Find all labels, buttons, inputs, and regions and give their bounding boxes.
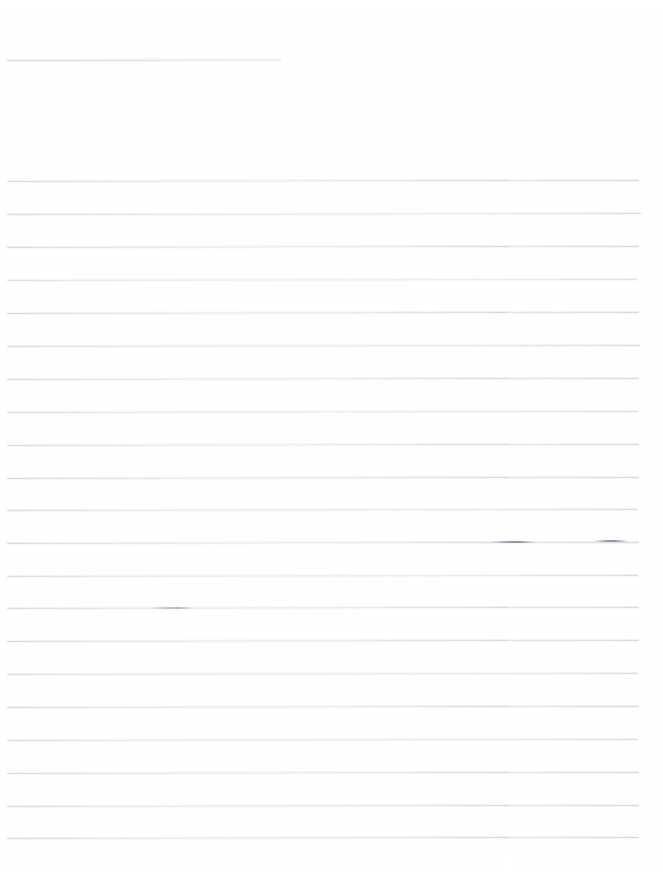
scanned-page — [0, 0, 663, 872]
rule-02 — [7, 213, 641, 215]
rule-20 — [7, 805, 639, 807]
rule-01 — [7, 180, 639, 182]
rule-08 — [7, 411, 638, 413]
header-rule — [7, 59, 281, 61]
rule-03 — [7, 246, 639, 248]
rule-18 — [7, 739, 638, 741]
rule-11 — [7, 509, 638, 511]
rule-14 — [7, 607, 639, 609]
rule-10 — [7, 477, 639, 479]
rule-15 — [7, 640, 639, 642]
rule-12 — [7, 542, 639, 544]
rule-09 — [7, 444, 639, 446]
rule-05 — [7, 312, 639, 314]
rule-19 — [7, 772, 639, 774]
rule-04 — [7, 279, 637, 281]
rule-17 — [7, 706, 639, 708]
rule-06 — [7, 345, 640, 347]
rule-07 — [7, 378, 639, 380]
rule-21 — [7, 837, 639, 839]
rule-16 — [7, 673, 638, 675]
rule-13 — [7, 575, 638, 577]
